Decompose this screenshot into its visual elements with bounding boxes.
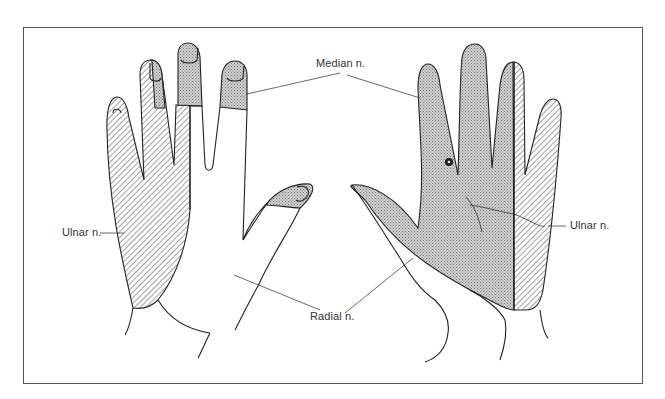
ulnar-region-right: [514, 62, 561, 310]
label-ulnar-nerve-left: Ulnar n.: [62, 226, 101, 238]
left-hand-dorsal: [107, 43, 313, 358]
label-ulnar-nerve-right: Ulnar n.: [570, 219, 609, 231]
label-radial-nerve: Radial n.: [310, 310, 354, 322]
label-median-nerve: Median n.: [316, 57, 365, 69]
median-tip-index: [220, 61, 247, 110]
median-tip-middle: [178, 43, 202, 106]
right-hand-palmar: [351, 44, 561, 362]
